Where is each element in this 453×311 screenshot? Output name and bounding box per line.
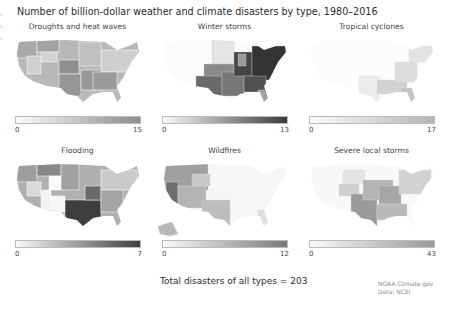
colorbar-max: 15: [133, 126, 142, 134]
us-map-winter-storms: [152, 32, 297, 114]
credit-data: Data: NCEI: [378, 288, 433, 296]
credit: NOAA Climate.gov Data: NCEI: [378, 280, 433, 296]
colorbar-min: 0: [162, 250, 166, 258]
colorbar: [162, 240, 288, 248]
us-map-tropical-cyclones: [299, 32, 444, 114]
edge-marks: :::: [0, 8, 4, 44]
credit-source: NOAA Climate.gov: [378, 280, 433, 288]
colorbar: [309, 240, 435, 248]
colorbar-min: 0: [309, 126, 313, 134]
panel-severe-local-storms: Severe local storms 0 43: [299, 146, 444, 266]
colorbar-min: 0: [15, 126, 19, 134]
colorbar-max: 43: [427, 250, 436, 258]
panel-title: Severe local storms: [299, 146, 444, 155]
us-map-severe-local-storms: [299, 156, 444, 238]
panel-wildfires: Wildfires 0 12: [152, 146, 297, 266]
colorbar-min: 0: [162, 126, 166, 134]
panel-title: Winter storms: [152, 22, 297, 31]
colorbar: [309, 116, 435, 124]
colorbar: [15, 116, 141, 124]
panel-title: Tropical cyclones: [299, 22, 444, 31]
panel-tropical-cyclones: Tropical cyclones 0 17: [299, 22, 444, 142]
panel-title: Flooding: [5, 146, 150, 155]
us-map-droughts: [5, 32, 150, 114]
colorbar-max: 13: [280, 126, 289, 134]
total-disasters-label: Total disasters of all types = 203: [160, 276, 307, 286]
panel-droughts: Droughts and heat waves 0 15: [5, 22, 150, 142]
panel-title: Wildfires: [152, 146, 297, 155]
panel-flooding: Flooding 0 7: [5, 146, 150, 266]
colorbar-max: 12: [280, 250, 289, 258]
chart-title: Number of billion-dollar weather and cli…: [17, 6, 377, 17]
colorbar-max: 7: [138, 250, 142, 258]
us-map-wildfires: [152, 156, 297, 238]
colorbar: [15, 240, 141, 248]
colorbar-max: 17: [427, 126, 436, 134]
colorbar-min: 0: [309, 250, 313, 258]
panel-winter-storms: Winter storms 0 13: [152, 22, 297, 142]
panel-title: Droughts and heat waves: [5, 22, 150, 31]
colorbar-min: 0: [15, 250, 19, 258]
colorbar: [162, 116, 288, 124]
us-map-flooding: [5, 156, 150, 238]
